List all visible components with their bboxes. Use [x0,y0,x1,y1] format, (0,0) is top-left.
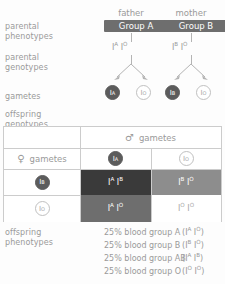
label-gametes: gametes [5,92,41,102]
punnett-cell-AO: IA IO [80,195,151,222]
punnett-cell-AB-s2: B [119,176,123,182]
mother-connector-line [191,33,192,42]
punnett-cell-AO-s2: O [119,202,123,208]
father-allele2-sup: O [123,41,127,47]
punnett-cell-BO-s2: O [189,176,193,182]
phenotype-B-s2: O [196,239,200,245]
punnett-hline-3 [4,195,80,196]
phenotype-row-A-text: 25% blood group A [104,228,180,237]
phenotype-O-s1: O [187,265,191,271]
label-offspring-phenotypes: offspring phenotypes [5,228,53,247]
phenotype-row-B-genotype: (IB IO) [182,241,204,250]
punnett-cell-BO: IB IO [151,169,221,195]
punnett-cell-AB-s1: A [110,176,114,182]
father-gamete-arrows [110,62,154,84]
venus-icon: ♀ [17,153,24,164]
phenotype-row-O-genotype: (IO IO) [182,267,204,276]
father-title: father [100,8,162,18]
father-genotype: IA IO [112,43,128,52]
punnett-hline-2 [4,169,221,170]
punnett-col-gamete-o: IO [179,151,194,166]
mother-gamete-b: IB [165,85,180,100]
phenotype-O-s2: O [197,265,201,271]
punnett-col-header-1: IA [80,148,151,169]
label-parental-phenotypes: parental phenotypes [5,22,53,41]
phenotype-row-AB-text: 25% blood group AB [104,254,186,263]
punnett-vline-1 [80,127,81,222]
punnett-col-header-2: IO [151,148,221,169]
punnett-row-header-1: IB [4,169,80,195]
mother-genotype: IB IO [172,43,188,52]
female-gametes-header-label: gametes [30,154,67,164]
punnett-col-gamete-a: IA [108,151,123,166]
punnett-cell-OO: IO IO [151,195,221,222]
phenotype-B-s1: B [187,239,191,245]
punnett-corner-empty [4,127,80,148]
phenotype-row-AB-genotype: (IA IB) [182,254,203,263]
punnett-cell-AO-text: IA IO [108,204,124,213]
phenotype-AB-s2: B [196,252,200,258]
punnett-cell-OO-s1: O [180,202,184,208]
mother-allele1-sup: B [174,41,178,47]
punnett-cell-BO-text: IB IO [178,178,194,187]
genetics-punnett-diagram: parental phenotypes parental genotypes g… [0,0,225,284]
punnett-row-gamete-b: IB [35,175,50,190]
punnett-hline-1 [4,148,221,149]
phenotype-A-s2: O [196,226,200,232]
male-gametes-header-label: gametes [139,133,176,143]
father-allele1-sup: A [114,41,118,47]
mother-gamete-o: IO [196,85,211,100]
punnett-cell-OO-text: IO IO [178,204,194,213]
punnett-cell-AO-s1: A [110,202,114,208]
father-gamete-o: IO [136,85,151,100]
punnett-cell-BO-s1: B [181,176,185,182]
punnett-vline-2 [151,148,152,222]
label-parental-genotypes: parental genotypes [5,53,48,72]
punnett-cell-OO-s2: O [190,202,194,208]
punnett-row-header-2: IO [4,195,80,222]
father-phenotype-badge: Group A [104,20,168,32]
mother-title: mother [160,8,222,18]
mother-gamete-arrows [170,62,214,84]
male-gametes-header: ♂ gametes [80,127,221,148]
father-connector-line [131,33,132,42]
phenotype-A-s1: A [187,226,191,232]
female-gametes-header: ♀ gametes [4,148,80,169]
father-gamete-a: IA [105,85,120,100]
phenotype-row-O-text: 25% blood group O [104,267,181,276]
punnett-cell-AB: IA IB [80,169,151,195]
mother-phenotype-badge: Group B [164,20,225,32]
punnett-square: ♂ gametes ♀ gametes IA IO IB [3,126,222,222]
phenotype-AB-s1: A [187,252,191,258]
phenotype-row-B-text: 25% blood group B [104,241,180,250]
mars-icon: ♂ [125,132,134,143]
phenotype-row-A-genotype: (IA IO) [182,228,204,237]
punnett-row-gamete-o: IO [35,201,50,216]
punnett-cell-AB-text: IA IB [108,178,123,187]
mother-allele2-sup: O [183,41,187,47]
